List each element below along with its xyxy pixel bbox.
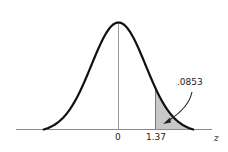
tick-label-cutoff: 1.37 [146,133,166,142]
area-annotation: .0853 [177,78,203,87]
shaded-tail-area [155,88,193,129]
axis-label-z: z [214,134,219,143]
tick-label-zero: 0 [115,133,121,142]
normal-distribution-chart [0,0,228,152]
